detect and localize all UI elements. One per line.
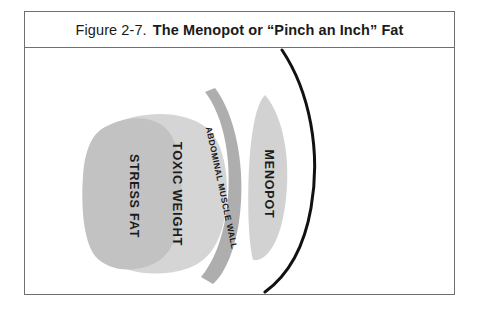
label-stress-fat: STRESS FAT (127, 154, 141, 238)
figure-body: STRESS FAT TOXIC WEIGHT ABDOMINAL MUSCLE… (25, 48, 454, 294)
figure-frame: Figure 2-7.The Menopot or “Pinch an Inch… (24, 11, 455, 295)
figure-caption-bar: Figure 2-7.The Menopot or “Pinch an Inch… (25, 12, 454, 48)
figure-caption-title: The Menopot or “Pinch an Inch” Fat (153, 22, 404, 38)
label-toxic-weight: TOXIC WEIGHT (170, 142, 185, 247)
figure-caption-number: Figure 2-7. (76, 22, 147, 38)
menopot-diagram: STRESS FAT TOXIC WEIGHT ABDOMINAL MUSCLE… (25, 48, 453, 294)
label-menopot: MENOPOT (262, 150, 276, 219)
figure-caption: Figure 2-7.The Menopot or “Pinch an Inch… (76, 22, 404, 38)
